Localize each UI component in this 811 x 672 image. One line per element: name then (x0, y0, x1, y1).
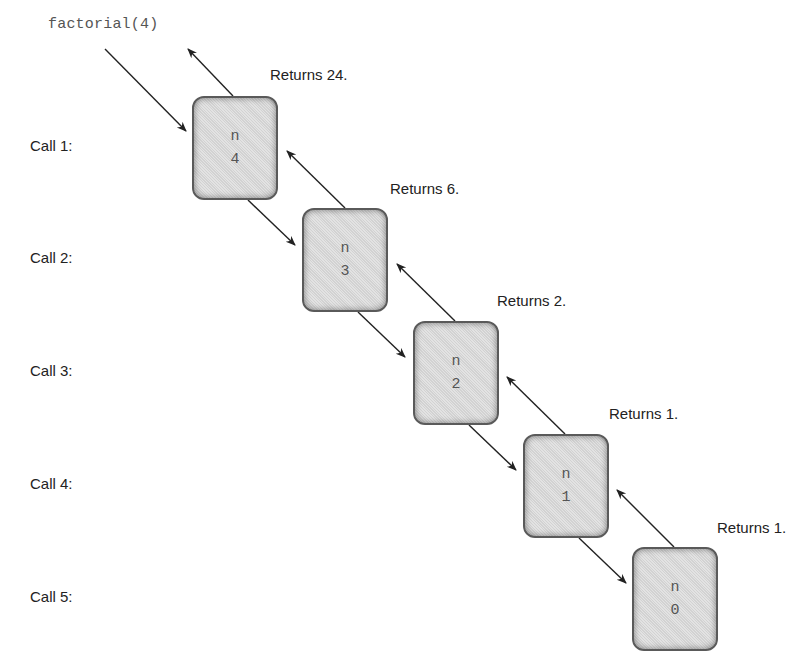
frame-var-name: n (670, 576, 679, 599)
call-arrow-4 (579, 538, 626, 583)
stack-frame-1: n 4 (192, 96, 278, 200)
frame-var-name: n (340, 237, 349, 260)
call-arrow-0 (105, 49, 186, 131)
stack-frame-5: n 0 (632, 547, 718, 651)
stack-frame-2: n 3 (302, 208, 388, 312)
frame-var-name: n (561, 463, 570, 486)
call-label-1: Call 1: (30, 137, 73, 154)
return-label-2: Returns 6. (390, 180, 459, 197)
stack-frame-4: n 1 (523, 434, 609, 538)
return-label-1: Returns 24. (270, 66, 348, 83)
return-label-5: Returns 1. (717, 519, 786, 536)
call-arrow-2 (358, 312, 405, 357)
frame-var-name: n (230, 125, 239, 148)
return-arrow-1 (287, 151, 345, 208)
call-label-2: Call 2: (30, 249, 73, 266)
frame-var-value: 2 (451, 373, 460, 396)
stack-frame-3: n 2 (413, 321, 499, 425)
initial-call-expression: factorial(4) (48, 16, 158, 33)
call-label-3: Call 3: (30, 362, 73, 379)
call-label-4: Call 4: (30, 475, 73, 492)
frame-var-value: 1 (561, 486, 570, 509)
return-arrow-0 (188, 49, 233, 96)
call-label-5: Call 5: (30, 588, 73, 605)
frame-var-value: 4 (230, 148, 239, 171)
return-arrow-2 (397, 264, 455, 321)
return-label-4: Returns 1. (609, 405, 678, 422)
return-arrow-4 (617, 490, 674, 547)
return-arrow-3 (507, 377, 565, 434)
call-arrow-3 (469, 425, 516, 470)
recursion-diagram: factorial(4) Call 1: Call 2: Call 3: Cal… (0, 0, 811, 672)
frame-var-name: n (451, 350, 460, 373)
return-label-3: Returns 2. (497, 292, 566, 309)
call-arrow-1 (248, 200, 295, 245)
frame-var-value: 3 (340, 260, 349, 283)
frame-var-value: 0 (670, 599, 679, 622)
